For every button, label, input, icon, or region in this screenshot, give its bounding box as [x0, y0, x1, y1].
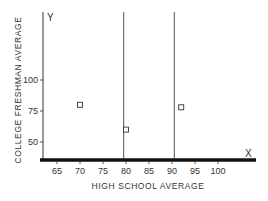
scatter-chart: 65707580859095100 5075100 Y X HIGH SCHOO… — [0, 0, 268, 201]
x-tick-label: 80 — [121, 166, 131, 176]
y-tick-label: 50 — [28, 137, 38, 147]
y-axis-letter: Y — [47, 12, 54, 23]
x-tick-label: 100 — [210, 166, 225, 176]
x-tick-label: 95 — [190, 166, 200, 176]
y-axis-title: COLLEGE FRESHMAN AVERAGE — [13, 17, 23, 164]
x-tick-label: 75 — [98, 166, 108, 176]
square-marker-point — [78, 102, 83, 107]
y-tick-label: 100 — [23, 75, 38, 85]
x-tick-labels: 65707580859095100 — [52, 161, 226, 176]
y-tick-label: 75 — [28, 106, 38, 116]
square-marker-point — [179, 105, 184, 110]
vertical-divider-lines — [124, 12, 175, 160]
y-tick-labels: 5075100 — [23, 75, 43, 147]
x-tick-label: 65 — [52, 166, 62, 176]
x-axis-letter: X — [245, 148, 252, 159]
data-points — [78, 102, 184, 132]
x-tick-label: 85 — [144, 166, 154, 176]
square-marker-point — [124, 127, 129, 132]
x-tick-label: 70 — [75, 166, 85, 176]
x-tick-label: 90 — [167, 166, 177, 176]
x-axis-title: HIGH SCHOOL AVERAGE — [92, 181, 205, 191]
